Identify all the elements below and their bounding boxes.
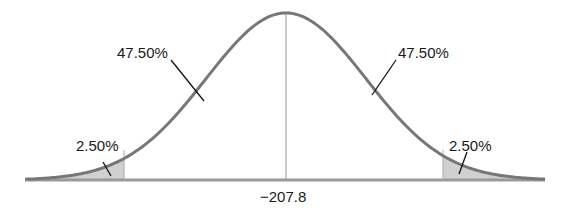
leader-right-center [372,60,396,95]
label-right-tail: 2.50% [449,137,492,154]
label-left-center: 47.50% [117,44,168,61]
normal-curve [25,13,545,179]
label-mean: −207.8 [260,188,306,205]
chart-canvas [0,0,570,215]
normal-distribution-chart: 47.50% 47.50% 2.50% 2.50% −207.8 [0,0,570,215]
leader-left-center [171,60,204,101]
label-left-tail: 2.50% [76,137,119,154]
right-tail-shade [443,156,545,180]
label-right-center: 47.50% [398,44,449,61]
left-tail-shade [25,159,124,180]
